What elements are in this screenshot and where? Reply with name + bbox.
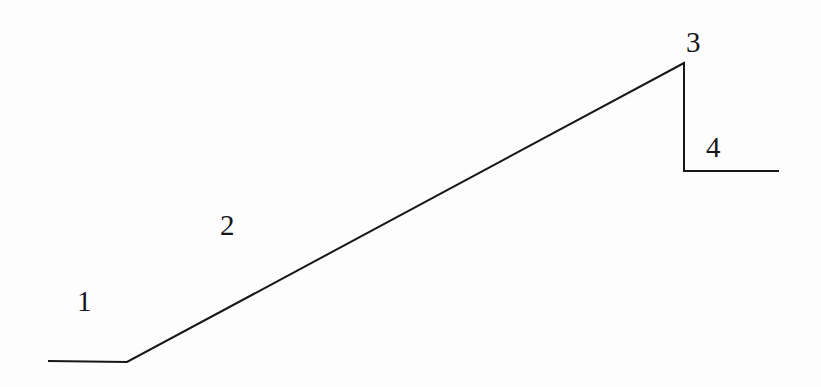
segment-label-3: 3 xyxy=(686,28,701,57)
segment-label-2: 2 xyxy=(220,211,235,240)
segment-label-1: 1 xyxy=(77,287,92,316)
profile-polyline xyxy=(48,63,779,362)
profile-diagram-svg xyxy=(0,0,821,387)
segment-label-4: 4 xyxy=(706,133,721,162)
figure-canvas: 1 2 3 4 xyxy=(0,0,821,387)
